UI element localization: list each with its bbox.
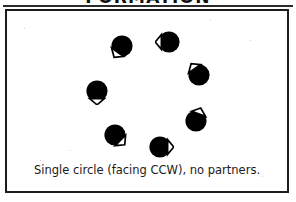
dancer-circle-icon [101,121,129,149]
dancer-circle-icon [182,107,210,135]
single-circle-formation-diagram [7,11,287,161]
formation-figure: FORMATION Single circle (facing CCW), no… [0,0,296,202]
dancer-circle-icon [155,28,183,56]
title-divider [3,5,293,7]
scan-speckle [262,176,263,177]
scan-speckle [210,20,211,21]
figure-caption: Single circle (facing CCW), no partners. [7,163,287,177]
scan-speckle [40,160,41,161]
scan-speckle [70,150,71,151]
scan-speckle [24,28,25,29]
dancer-circle-icon [185,61,213,89]
scan-speckle [250,40,251,41]
dancer-circle-icon [108,32,136,60]
figure-border: Single circle (facing CCW), no partners. [5,9,289,193]
dancer-circle-icon [83,77,111,105]
dancer-circle-icon [146,133,174,161]
